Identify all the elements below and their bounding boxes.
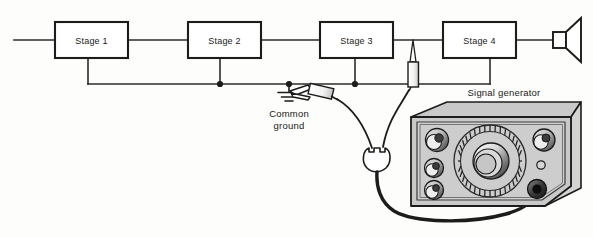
ground-bus [88,58,490,84]
signal-generator-label: Signal generator [468,87,541,98]
knob-left-top[interactable] [426,129,449,152]
pilot-indicator-lamp [537,161,545,169]
clip-jaw-lower [291,93,310,100]
signal-generator[interactable] [411,102,581,206]
knob-left-bottom[interactable] [425,181,444,200]
two-lead-plug[interactable] [363,148,390,172]
alligator-clip[interactable] [290,83,338,100]
junction-dot-stage2 [217,81,223,87]
ground-lead-cable [337,99,372,148]
probe-body [408,62,419,87]
stage-2-label: Stage 2 [208,36,240,46]
stage-1-label: Stage 1 [75,36,107,46]
speaker-cone [566,18,581,62]
signal-injection-diagram: Stage 1 Stage 2 Stage 3 Stage 4 [0,0,593,238]
speaker-body [553,32,566,48]
frequency-dial[interactable] [454,125,526,197]
probe-tip [410,40,416,62]
common-ground-label-line1: Common [269,108,309,119]
signal-injection-probe[interactable] [408,40,419,91]
knob-left-middle[interactable] [425,159,444,178]
common-ground-label-line2: ground [274,120,305,131]
knob-right-top[interactable] [533,129,555,151]
stage-box-1[interactable]: Stage 1 [55,22,128,58]
plug-shell [363,148,390,172]
stage-box-4[interactable]: Stage 4 [443,22,516,58]
diagram-canvas: Stage 1 Stage 2 Stage 3 Stage 4 [0,0,593,238]
stage-box-2[interactable]: Stage 2 [188,22,261,58]
generator-top-face [411,102,581,117]
output-jack[interactable] [528,180,547,199]
stage-3-label: Stage 3 [340,36,372,46]
junction-dot-stage3 [352,81,358,87]
clip-barrel [308,83,334,99]
dial-knob-inner[interactable] [476,154,496,174]
speaker-icon [553,18,581,62]
stage-box-3[interactable]: Stage 3 [320,22,393,58]
stage-4-label: Stage 4 [463,36,495,46]
probe-lead-cable [383,90,409,147]
